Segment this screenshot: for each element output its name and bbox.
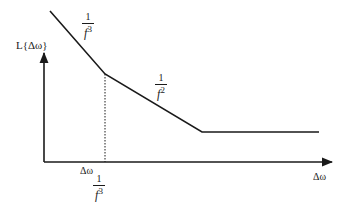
fraction-numerator: 1 [157,73,166,83]
corner-frequency-subscript: 1 f3 [93,174,105,201]
slope-label-1-over-f3: 1 f3 [82,12,94,39]
fraction-denominator: f3 [95,187,103,201]
denominator-exponent: 3 [98,186,103,196]
fraction-denominator: f3 [84,25,92,39]
slope-label-1-over-f2: 1 f2 [155,73,167,100]
corner-frequency-label: Δω [80,166,93,176]
diagram-canvas [0,0,340,208]
x-axis-label: Δω [313,172,326,182]
denominator-exponent: 3 [87,24,92,34]
fraction-denominator: f2 [157,86,165,100]
fraction-numerator: 1 [95,174,104,184]
y-axis-label: L{Δω} [16,40,48,51]
fraction-numerator: 1 [84,12,93,22]
denominator-exponent: 2 [160,85,165,95]
